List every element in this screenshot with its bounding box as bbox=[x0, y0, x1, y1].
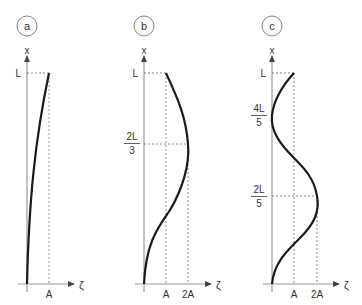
panel-badge-label: b bbox=[141, 20, 147, 32]
y-axis-label: x bbox=[25, 45, 30, 56]
tick-4L5-num: 4L bbox=[253, 103, 265, 114]
panel-a: a x ζ L A bbox=[15, 16, 84, 300]
tick-2L3-num: 2L bbox=[126, 131, 138, 142]
tick-L: L bbox=[260, 68, 266, 79]
tick-L: L bbox=[15, 68, 21, 79]
panel-badge-label: c bbox=[269, 20, 275, 32]
tick-A: A bbox=[163, 289, 170, 300]
tick-A: A bbox=[46, 289, 53, 300]
tick-L: L bbox=[132, 68, 138, 79]
x-axis-label: ζ bbox=[79, 279, 84, 291]
tick-2A: 2A bbox=[182, 289, 195, 300]
tick-A: A bbox=[291, 289, 298, 300]
panel-c: c x ζ L 4L 5 2L 5 A 2A bbox=[251, 16, 349, 300]
mode-curve-c bbox=[272, 73, 318, 284]
y-axis-label: x bbox=[142, 45, 147, 56]
x-axis-label: ζ bbox=[344, 279, 349, 291]
tick-2A: 2A bbox=[311, 289, 324, 300]
tick-2L5-den: 5 bbox=[256, 198, 262, 209]
panel-badge-label: a bbox=[24, 20, 31, 32]
tick-2L5-num: 2L bbox=[253, 184, 265, 195]
y-axis-label: x bbox=[270, 45, 275, 56]
x-axis-label: ζ bbox=[216, 279, 221, 291]
mode-curve-a bbox=[27, 73, 49, 284]
tick-2L3-den: 3 bbox=[129, 145, 135, 156]
panel-b: b x ζ L 2L 3 A 2A bbox=[124, 16, 221, 300]
tick-4L5-den: 5 bbox=[256, 117, 262, 128]
diagram-canvas: a x ζ L A b x ζ L 2L 3 A 2A c bbox=[0, 0, 362, 305]
